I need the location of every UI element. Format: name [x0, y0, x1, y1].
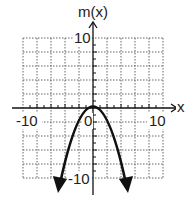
x-tick-label-left: -10: [16, 112, 38, 129]
curve-arrow-left-icon: [53, 176, 67, 193]
y-axis-title: m(x): [78, 3, 108, 20]
x-tick-label-right: 10: [149, 112, 166, 129]
y-tick-label-top: 10: [74, 29, 91, 46]
graph-canvas: m(x) x 10 -10 0 10 -10: [0, 0, 194, 198]
labels: m(x) x 10 -10 0 10 -10: [14, 3, 188, 187]
y-tick-label-bottom: -10: [68, 170, 90, 187]
curve-arrow-right-icon: [119, 176, 133, 193]
x-tick-label-origin: 0: [84, 112, 92, 129]
x-axis-title: x: [177, 98, 185, 115]
